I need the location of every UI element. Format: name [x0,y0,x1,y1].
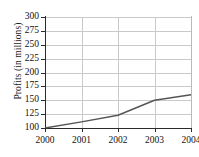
y-axis-tick [41,59,45,60]
y-axis-tick [41,114,45,115]
y-axis-tick [41,100,45,101]
y-axis-tick [41,73,45,74]
x-axis-tick-label: 2001 [62,135,102,145]
x-axis-tick-label: 2003 [135,135,175,145]
x-axis-tick [82,128,83,132]
x-axis-tick [45,128,46,132]
series-layer [0,0,199,157]
x-axis-tick [191,128,192,132]
x-axis-tick-label: 2004 [171,135,199,145]
y-axis-tick [41,45,45,46]
x-axis-tick-label: 2002 [98,135,138,145]
y-axis-tick [41,17,45,18]
x-axis-tick [155,128,156,132]
x-axis-tick-label: 2000 [25,135,65,145]
y-axis-tick [41,86,45,87]
profits-line [45,95,191,128]
line-chart: Profits (in millions) 100125150175200225… [0,0,199,157]
y-axis-tick [41,31,45,32]
x-axis-tick [118,128,119,132]
